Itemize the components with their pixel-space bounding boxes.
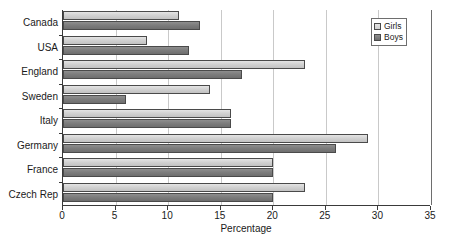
chart-legend: Girls Boys xyxy=(371,18,407,46)
value-tick-label: 35 xyxy=(424,210,435,221)
bar-boys-usa xyxy=(63,46,189,55)
category-label-sweden: Sweden xyxy=(22,90,58,101)
bar-boys-sweden xyxy=(63,95,126,104)
value-tick-label: 15 xyxy=(214,210,225,221)
category-label-england: England xyxy=(21,66,58,77)
value-tick-label: 25 xyxy=(319,210,330,221)
bar-group xyxy=(63,157,430,182)
bar-group xyxy=(63,108,430,133)
value-axis-labels: 05101520253035 xyxy=(62,210,430,224)
boys-swatch-icon xyxy=(374,34,381,41)
category-label-france: France xyxy=(27,164,58,175)
category-axis-labels: CanadaUSAEnglandSwedenItalyGermanyFrance… xyxy=(0,10,58,206)
bar-girls-usa xyxy=(63,36,147,45)
legend-item-girls: Girls xyxy=(374,21,403,32)
value-tick-label: 0 xyxy=(59,210,65,221)
x-axis-title: Percentage xyxy=(62,223,430,234)
bar-girls-czech-rep xyxy=(63,183,305,192)
bar-boys-italy xyxy=(63,119,231,128)
bar-boys-england xyxy=(63,70,242,79)
value-tick-label: 10 xyxy=(162,210,173,221)
bar-group xyxy=(63,84,430,109)
value-tick-label: 5 xyxy=(112,210,118,221)
bar-boys-france xyxy=(63,168,273,177)
category-label-canada: Canada xyxy=(23,17,58,28)
girls-swatch-icon xyxy=(374,23,381,30)
bar-girls-france xyxy=(63,158,273,167)
legend-label-boys: Boys xyxy=(384,33,403,42)
legend-label-girls: Girls xyxy=(384,22,401,31)
bar-boys-canada xyxy=(63,21,200,30)
bar-group xyxy=(63,182,430,207)
bar-chart: CanadaUSAEnglandSwedenItalyGermanyFrance… xyxy=(0,0,449,240)
bar-boys-germany xyxy=(63,144,336,153)
gridline xyxy=(431,10,432,205)
bar-girls-sweden xyxy=(63,85,210,94)
legend-item-boys: Boys xyxy=(374,32,403,43)
category-label-italy: Italy xyxy=(40,115,58,126)
category-label-usa: USA xyxy=(37,41,58,52)
category-label-germany: Germany xyxy=(17,139,58,150)
bar-boys-czech-rep xyxy=(63,193,273,202)
bar-girls-germany xyxy=(63,134,368,143)
value-tick-label: 30 xyxy=(372,210,383,221)
bar-group xyxy=(63,133,430,158)
bar-girls-canada xyxy=(63,11,179,20)
bar-girls-england xyxy=(63,60,305,69)
value-tick-label: 20 xyxy=(267,210,278,221)
bar-girls-italy xyxy=(63,109,231,118)
bar-group xyxy=(63,59,430,84)
category-label-czech-rep: Czech Rep xyxy=(9,188,58,199)
